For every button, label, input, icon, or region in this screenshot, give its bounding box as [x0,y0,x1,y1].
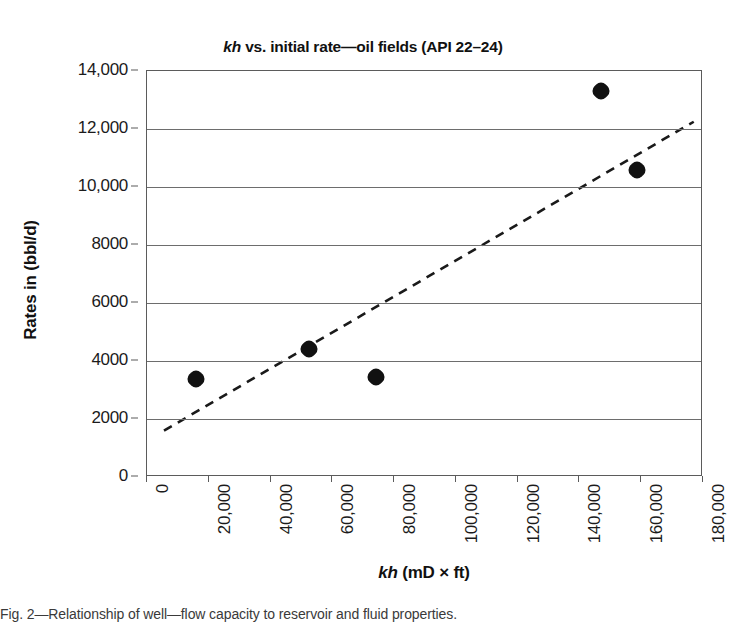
chart-title-rest: vs. initial rate—oil fields (API 22–24) [241,38,503,55]
gridline-horizontal [147,245,701,246]
x-tick-label: 20,000 [215,484,235,534]
x-tick-mark [393,476,394,482]
y-tick-label: 0 [119,466,128,486]
x-tick-label: 180,000 [709,484,729,543]
x-axis-title-italic-part: kh [378,563,397,582]
trendline-layer [147,71,703,477]
x-tick-label: 120,000 [524,484,544,543]
y-tick-label: 14,000 [78,60,128,80]
x-axis: 020,00040,00060,00080,000100,000120,0001… [146,476,702,566]
x-tick-label: 0 [153,484,173,493]
x-tick-label: 80,000 [400,484,420,534]
trendline [164,122,694,431]
y-tick-mark [131,186,138,187]
gridline-horizontal [147,129,701,130]
y-tick-mark [131,244,138,245]
x-tick-mark [578,476,579,482]
y-tick-label: 12,000 [78,118,128,138]
x-tick-mark [146,476,147,482]
x-tick-mark [331,476,332,482]
y-axis-title: Rates in (bbl/d) [21,165,41,395]
plot-area [146,70,702,476]
y-tick-label: 8000 [91,234,128,254]
x-tick-mark [702,476,703,482]
y-axis: Rates in (bbl/d) 0200040006000800010,000… [0,70,138,476]
y-tick-label: 6000 [91,292,128,312]
x-tick-mark [455,476,456,482]
chart-figure: kh vs. initial rate—oil fields (API 22–2… [0,0,750,633]
x-axis-title: kh (mD × ft) [146,563,702,583]
x-tick-label: 140,000 [585,484,605,543]
x-tick-mark [640,476,641,482]
gridline-horizontal [147,303,701,304]
figure-caption: Fig. 2—Relationship of well—flow capacit… [0,606,750,633]
x-tick-mark [517,476,518,482]
y-tick-label: 4000 [91,350,128,370]
x-tick-label: 60,000 [338,484,358,534]
x-tick-mark [270,476,271,482]
gridline-horizontal [147,187,701,188]
x-tick-label: 40,000 [277,484,297,534]
y-tick-mark [131,70,138,71]
gridline-horizontal [147,419,701,420]
y-tick-mark [131,302,138,303]
x-axis-title-rest: (mD × ft) [398,563,470,582]
y-tick-mark [131,360,138,361]
y-tick-label: 2000 [91,408,128,428]
y-tick-mark [131,418,138,419]
y-tick-label: 10,000 [78,176,128,196]
x-tick-label: 100,000 [462,484,482,543]
x-tick-label: 160,000 [647,484,667,543]
y-tick-mark [131,128,138,129]
y-tick-mark [131,476,138,477]
chart-title: kh vs. initial rate—oil fields (API 22–2… [0,38,726,56]
gridline-horizontal [147,361,701,362]
chart-title-italic-part: kh [223,38,241,55]
x-tick-mark [208,476,209,482]
